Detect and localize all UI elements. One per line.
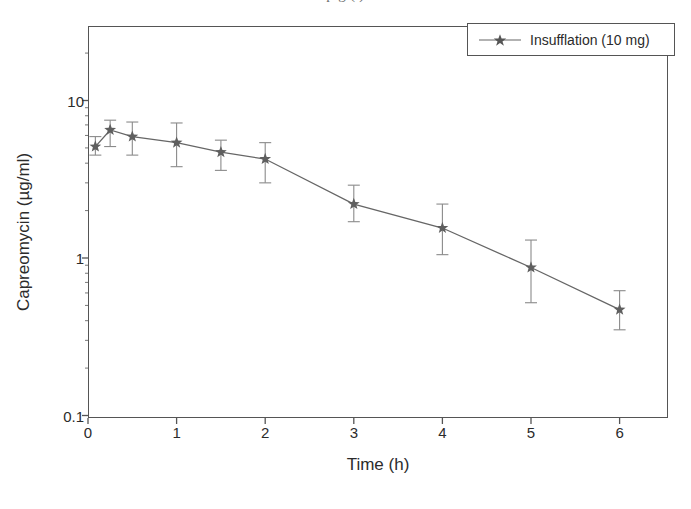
x-tick-label: 2 [245, 424, 285, 441]
plot-area-frame [88, 26, 668, 418]
chart-figure: p g ( ) 1010.1 0123456 Capreomycin (µg/m… [0, 0, 691, 509]
x-tick-label: 1 [157, 424, 197, 441]
y-tick-label: 1 [40, 250, 84, 267]
x-tick-label: 3 [334, 424, 374, 441]
caption-cutoff-text: p g ( ) [0, 0, 691, 4]
x-tick-label: 4 [422, 424, 462, 441]
legend-marker-star-icon [478, 33, 522, 47]
y-axis-title: Capreomycin (µg/ml) [14, 82, 34, 382]
legend-entry-label: Insufflation (10 mg) [530, 32, 650, 48]
y-tick-label: 10 [40, 92, 84, 109]
legend-box: Insufflation (10 mg) [467, 23, 675, 56]
x-tick-label: 0 [68, 424, 108, 441]
x-tick-label: 5 [511, 424, 551, 441]
x-tick-label: 6 [600, 424, 640, 441]
x-axis-title: Time (h) [88, 455, 668, 475]
y-tick-label: 0.1 [40, 407, 84, 424]
